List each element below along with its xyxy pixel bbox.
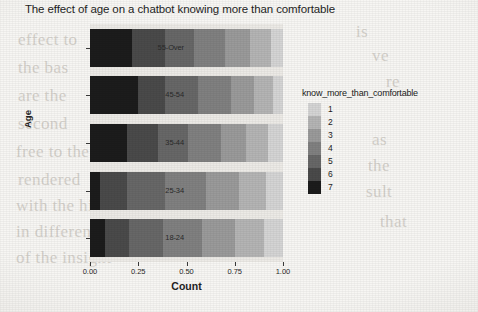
legend-items: 1234567 (302, 103, 418, 194)
y-tick-label-35-44: 35-44 (64, 138, 184, 147)
chart-figure: The effect of age on a chatbot knowing m… (0, 0, 478, 312)
x-tick-mark (138, 262, 139, 266)
x-tick-label-0.00: 0.00 (70, 267, 110, 276)
x-tick-label-1.00: 1.00 (263, 267, 303, 276)
bar-segment-level-4 (188, 124, 221, 162)
legend-item-3: 3 (302, 129, 418, 142)
y-tick-label-25-34: 25-34 (64, 186, 184, 195)
x-tick-label-0.50: 0.50 (167, 267, 207, 276)
bar-segment-level-2 (239, 172, 266, 210)
legend-swatch-4 (308, 142, 321, 155)
bar-segment-level-1 (273, 76, 283, 114)
bar-segment-level-1 (268, 124, 283, 162)
x-tick-mark (187, 262, 188, 266)
bar-segment-level-4 (194, 29, 225, 67)
bar-segment-level-3 (221, 124, 246, 162)
bar-segment-level-3 (202, 219, 235, 257)
bar-segment-level-3 (225, 29, 250, 67)
legend-swatch-2 (308, 116, 321, 129)
legend-swatch-6 (308, 168, 321, 181)
bar-segment-level-2 (254, 76, 273, 114)
bar-segment-level-1 (271, 29, 283, 67)
legend-item-6: 6 (302, 168, 418, 181)
x-tick-label-0.75: 0.75 (215, 267, 255, 276)
scanned-figure-page: effect tothe basare thesecondfree to the… (0, 0, 478, 312)
y-tick-label-45-54: 45-54 (64, 90, 184, 99)
legend-swatch-5 (308, 155, 321, 168)
legend-item-5: 5 (302, 155, 418, 168)
x-axis-label: Count (90, 280, 283, 292)
legend-swatch-1 (308, 103, 321, 116)
y-tick-label-55-Over: 55-Over (64, 43, 184, 52)
legend-item-2: 2 (302, 116, 418, 129)
legend-label-5: 5 (328, 155, 333, 168)
bar-segment-level-3 (206, 172, 239, 210)
legend-item-4: 4 (302, 142, 418, 155)
y-tick-label-18-24: 18-24 (64, 233, 184, 242)
legend-title: know_more_than_comfortable (302, 88, 418, 98)
bar-segment-level-4 (198, 76, 231, 114)
y-axis-label: Age (22, 110, 33, 128)
legend-item-7: 7 (302, 181, 418, 194)
x-tick-mark (235, 262, 236, 266)
bar-segment-level-2 (246, 124, 267, 162)
x-tick-label-0.25: 0.25 (118, 267, 158, 276)
legend-swatch-7 (308, 181, 321, 194)
x-tick-mark (90, 262, 91, 266)
legend-item-1: 1 (302, 103, 418, 116)
bar-segment-level-2 (235, 219, 264, 257)
legend-label-3: 3 (328, 129, 333, 142)
bar-segment-level-2 (250, 29, 271, 67)
chart-title: The effect of age on a chatbot knowing m… (0, 3, 360, 15)
x-tick-mark (283, 262, 284, 266)
legend-label-7: 7 (328, 181, 333, 194)
bar-segment-level-1 (264, 219, 283, 257)
legend-label-1: 1 (328, 103, 333, 116)
legend-label-4: 4 (328, 142, 333, 155)
bar-segment-level-3 (231, 76, 254, 114)
legend-swatch-3 (308, 129, 321, 142)
legend-label-2: 2 (328, 116, 333, 129)
bar-segment-level-1 (266, 172, 283, 210)
legend-label-6: 6 (328, 168, 333, 181)
legend: know_more_than_comfortable 1234567 (302, 88, 418, 194)
